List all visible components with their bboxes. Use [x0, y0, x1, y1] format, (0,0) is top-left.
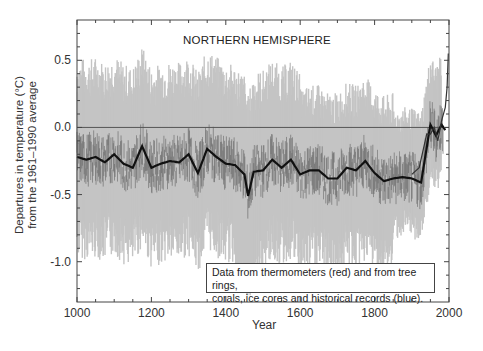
svg-text:0.0: 0.0 — [54, 120, 71, 134]
svg-text:1200: 1200 — [138, 306, 165, 320]
svg-text:1800: 1800 — [361, 306, 388, 320]
svg-text:-1.0: -1.0 — [50, 255, 71, 269]
legend-box: Data from thermometers (red) and from tr… — [206, 263, 435, 293]
svg-text:1600: 1600 — [287, 306, 314, 320]
y-axis-label-line2: from the 1961–1990 average — [26, 76, 39, 234]
svg-text:-0.5: -0.5 — [50, 188, 71, 202]
svg-text:1400: 1400 — [212, 306, 239, 320]
y-axis-label: Departures in temperature (°C) from the … — [6, 30, 46, 280]
legend-line2: corals, ice cores and historical records… — [212, 292, 429, 305]
svg-text:0.5: 0.5 — [54, 53, 71, 67]
y-axis-label-line1: Departures in temperature (°C) — [13, 76, 26, 234]
svg-text:1000: 1000 — [64, 306, 91, 320]
legend-line1: Data from thermometers (red) and from tr… — [212, 266, 429, 292]
x-axis-label: Year — [252, 318, 276, 332]
chart-title: NORTHERN HEMISPHERE — [183, 34, 331, 46]
svg-text:2000: 2000 — [436, 306, 463, 320]
